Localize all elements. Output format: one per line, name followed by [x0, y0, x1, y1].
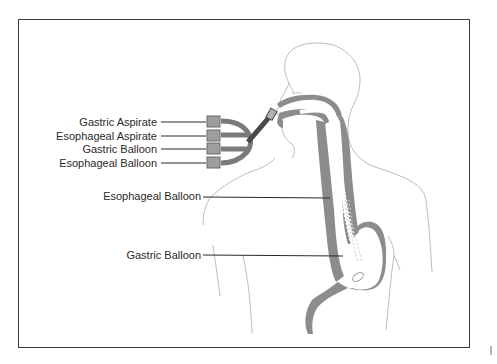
- port-connectors: [207, 116, 220, 168]
- leader-gastric-balloon: [203, 255, 343, 256]
- port-esophageal-aspirate: [207, 130, 220, 141]
- edge-mark: [490, 346, 492, 355]
- label-gastric-balloon: Gastric Balloon: [126, 249, 201, 261]
- port-gastric-aspirate: [207, 116, 220, 127]
- port-gastric-balloon: [207, 143, 220, 154]
- body-outline: [203, 43, 432, 333]
- leader-esophageal-balloon: [203, 197, 330, 198]
- port-esophageal-balloon: [207, 157, 220, 168]
- label-esophageal-balloon-port: Esophageal Balloon: [59, 157, 157, 169]
- tube-bundle: [221, 116, 270, 163]
- label-gastric-balloon-port: Gastric Balloon: [82, 143, 157, 155]
- label-esophageal-aspirate: Esophageal Aspirate: [56, 130, 157, 142]
- gi-tract: [277, 95, 386, 334]
- label-esophageal-balloon: Esophageal Balloon: [103, 190, 201, 202]
- anatomy-illustration: [0, 0, 497, 364]
- label-gastric-aspirate: Gastric Aspirate: [79, 116, 157, 128]
